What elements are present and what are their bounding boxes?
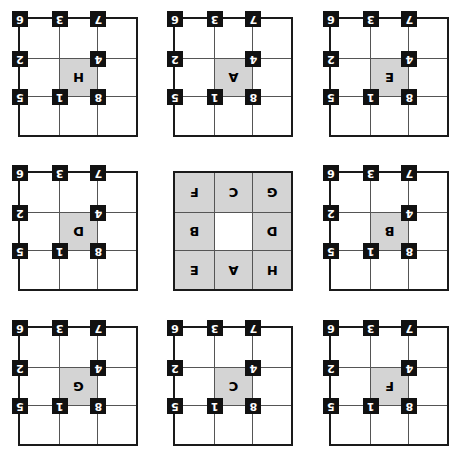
corner-number-badge: 3: [363, 165, 379, 181]
puzzle-grid: 8154H2736: [18, 17, 138, 137]
cell-letter: F: [385, 380, 394, 393]
puzzle-grid: 8154E2736: [329, 17, 449, 137]
panel-top-center[interactable]: 8154A2736: [156, 0, 312, 154]
corner-number-badge: 7: [90, 165, 106, 181]
cell-letter: A: [229, 264, 239, 277]
puzzle-grid: 8154G2736: [18, 326, 138, 446]
panel-top-right[interactable]: 8154E2736: [311, 0, 467, 154]
corner-number-badge: 1: [52, 244, 68, 260]
corner-number-badge: 8: [246, 90, 262, 106]
puzzle-cell[interactable]: B: [175, 212, 214, 251]
corner-number-badge: 3: [52, 11, 68, 27]
corner-number-badge: 2: [323, 51, 339, 67]
corner-number-badge: 5: [12, 398, 28, 414]
panel-bottom-left[interactable]: 8154G2736: [0, 309, 156, 463]
corner-number-badge: 5: [167, 90, 183, 106]
puzzle-grid: 8154B2736: [329, 171, 449, 291]
corner-number-badge: 2: [12, 51, 28, 67]
puzzle-cell[interactable]: E: [175, 251, 214, 290]
corner-number-badge: 8: [90, 244, 106, 260]
puzzle-cell[interactable]: 8: [97, 97, 136, 136]
cell-letter: H: [267, 264, 278, 277]
corner-number-badge: 6: [323, 320, 339, 336]
corner-number-badge: 2: [12, 359, 28, 375]
corner-number-badge: 3: [207, 320, 223, 336]
puzzle-cell[interactable]: 8: [253, 405, 292, 444]
puzzle-grid: 8154D2736: [18, 171, 138, 291]
corner-number-badge: 2: [323, 359, 339, 375]
corner-number-badge: 4: [402, 51, 418, 67]
cell-letter: H: [73, 71, 84, 84]
corner-number-badge: 3: [52, 165, 68, 181]
corner-number-badge: 7: [246, 11, 262, 27]
puzzle-cell[interactable]: A: [214, 251, 253, 290]
corner-number-badge: 4: [90, 51, 106, 67]
corner-number-badge: 7: [90, 320, 106, 336]
corner-number-badge: 1: [52, 398, 68, 414]
puzzle-cell[interactable]: 8: [253, 97, 292, 136]
puzzle-grid: 8154A2736: [173, 17, 293, 137]
panel-bottom-right[interactable]: 8154F2736: [311, 309, 467, 463]
panel-center[interactable]: HAEDBGCF: [156, 154, 312, 308]
panel-top-left[interactable]: 8154H2736: [0, 0, 156, 154]
cell-letter: E: [190, 264, 199, 277]
corner-number-badge: 3: [363, 11, 379, 27]
puzzle-cell[interactable]: 8: [409, 405, 448, 444]
corner-number-badge: 1: [207, 398, 223, 414]
corner-number-badge: 1: [207, 90, 223, 106]
corner-number-badge: 3: [363, 320, 379, 336]
corner-number-badge: 8: [402, 244, 418, 260]
corner-number-badge: 8: [402, 398, 418, 414]
corner-number-badge: 4: [90, 205, 106, 221]
cell-letter: B: [385, 226, 395, 239]
corner-number-badge: 8: [90, 398, 106, 414]
corner-number-badge: 8: [402, 90, 418, 106]
puzzle-cell[interactable]: 8: [97, 405, 136, 444]
puzzle-cell[interactable]: F: [175, 173, 214, 212]
corner-number-badge: 3: [52, 320, 68, 336]
corner-number-badge: 7: [402, 11, 418, 27]
corner-number-badge: 1: [363, 244, 379, 260]
corner-number-badge: 6: [12, 11, 28, 27]
corner-number-badge: 2: [167, 359, 183, 375]
cell-letter: G: [267, 186, 278, 199]
puzzle-cell[interactable]: C: [214, 173, 253, 212]
puzzle-cell[interactable]: 8: [97, 251, 136, 290]
puzzle-cell[interactable]: 8: [409, 251, 448, 290]
cell-letter: C: [229, 380, 239, 393]
corner-number-badge: 6: [167, 11, 183, 27]
puzzle-grid: 8154F2736: [329, 326, 449, 446]
panel-middle-right[interactable]: 8154B2736: [311, 154, 467, 308]
corner-number-badge: 6: [323, 165, 339, 181]
puzzle-cell[interactable]: H: [253, 251, 292, 290]
panel-middle-left[interactable]: 8154D2736: [0, 154, 156, 308]
cell-letter: D: [73, 226, 84, 239]
puzzle-grid: 8154C2736: [173, 326, 293, 446]
puzzle-grid: HAEDBGCF: [173, 171, 293, 291]
puzzle-cell[interactable]: [214, 212, 253, 251]
cell-letter: G: [73, 380, 84, 393]
corner-number-badge: 4: [246, 359, 262, 375]
puzzle-board: 8154H27368154A27368154E27368154D2736HAED…: [0, 0, 467, 463]
puzzle-cell[interactable]: D: [253, 212, 292, 251]
corner-number-badge: 4: [90, 359, 106, 375]
cell-letter: F: [190, 186, 199, 199]
corner-number-badge: 8: [246, 398, 262, 414]
panel-bottom-center[interactable]: 8154C2736: [156, 309, 312, 463]
cell-letter: E: [385, 71, 394, 84]
corner-number-badge: 7: [90, 11, 106, 27]
puzzle-cell[interactable]: 8: [409, 97, 448, 136]
corner-number-badge: 6: [323, 11, 339, 27]
corner-number-badge: 4: [402, 359, 418, 375]
corner-number-badge: 2: [323, 205, 339, 221]
cell-letter: D: [267, 226, 278, 239]
corner-number-badge: 1: [363, 90, 379, 106]
corner-number-badge: 5: [323, 398, 339, 414]
corner-number-badge: 7: [402, 165, 418, 181]
corner-number-badge: 7: [246, 320, 262, 336]
corner-number-badge: 5: [12, 244, 28, 260]
puzzle-cell[interactable]: G: [253, 173, 292, 212]
corner-number-badge: 2: [167, 51, 183, 67]
corner-number-badge: 1: [363, 398, 379, 414]
corner-number-badge: 6: [167, 320, 183, 336]
